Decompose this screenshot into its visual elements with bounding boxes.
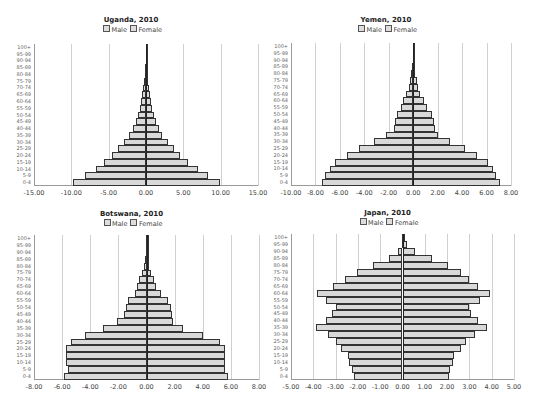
y-axis-line bbox=[34, 44, 35, 186]
y-tick-label: 90-94 bbox=[1, 249, 31, 255]
y-tick-label: 85-89 bbox=[1, 256, 31, 262]
bar-female-0-4 bbox=[403, 373, 449, 380]
bar-male-40-44 bbox=[326, 317, 403, 324]
y-tick-label: 80-84 bbox=[1, 263, 31, 269]
zero-line bbox=[403, 234, 404, 380]
legend-swatch-male bbox=[358, 25, 365, 32]
y-tick-label: 100+ bbox=[1, 235, 31, 241]
y-tick-label: 50-54 bbox=[258, 111, 288, 117]
bar-female-90-94 bbox=[403, 248, 416, 255]
bar-female-0-4 bbox=[147, 373, 229, 380]
y-tick-label: 35-39 bbox=[258, 324, 288, 330]
bar-male-80-84 bbox=[373, 262, 402, 269]
bar-female-10-14 bbox=[403, 359, 454, 366]
bar-male-30-34 bbox=[85, 332, 147, 339]
bar-male-5-9 bbox=[352, 366, 402, 373]
bar-male-15-19 bbox=[66, 352, 146, 359]
bar-female-0-4 bbox=[413, 179, 500, 186]
y-tick-label: 55-59 bbox=[258, 104, 288, 110]
y-tick-label: 40-44 bbox=[1, 318, 31, 324]
bar-female-35-39 bbox=[147, 325, 184, 332]
y-tick-label: 95-99 bbox=[1, 51, 31, 57]
y-tick-label: 95-99 bbox=[258, 50, 288, 56]
chart-legend-japan: MaleFemale bbox=[261, 218, 514, 227]
y-tick-label: 15-19 bbox=[1, 159, 31, 165]
legend-label-male: Male bbox=[367, 26, 382, 34]
bar-male-10-14 bbox=[66, 359, 146, 366]
plot-area-botswana bbox=[34, 235, 259, 380]
y-tick-label: 10-14 bbox=[258, 165, 288, 171]
gridline bbox=[315, 43, 316, 186]
y-tick-label: 60-64 bbox=[1, 98, 31, 104]
legend-label-male: Male bbox=[112, 26, 127, 34]
bar-female-40-44 bbox=[403, 317, 479, 324]
bar-female-25-29 bbox=[147, 339, 220, 346]
bar-female-60-64 bbox=[147, 290, 161, 297]
bar-female-35-39 bbox=[403, 324, 487, 331]
bar-male-30-34 bbox=[124, 139, 146, 146]
y-tick-label: 100+ bbox=[258, 43, 288, 49]
legend-label-male: Male bbox=[368, 219, 383, 227]
bar-male-45-49 bbox=[332, 310, 402, 317]
chart-legend-uganda: MaleFemale bbox=[4, 25, 258, 34]
y-tick-label: 20-24 bbox=[1, 345, 31, 351]
x-tick-label: -5.00 bbox=[89, 189, 129, 197]
y-tick-label: 65-69 bbox=[258, 283, 288, 289]
y-axis-line bbox=[291, 234, 292, 380]
bar-male-55-59 bbox=[326, 297, 402, 304]
legend-swatch-female bbox=[385, 25, 392, 32]
bar-male-0-4 bbox=[322, 179, 414, 186]
legend-label-female: Female bbox=[138, 26, 162, 34]
bar-male-75-79 bbox=[357, 269, 403, 276]
y-tick-label: 95-99 bbox=[1, 242, 31, 248]
x-tick-label: -15.00 bbox=[14, 189, 54, 197]
bar-female-5-9 bbox=[146, 172, 208, 179]
y-tick-label: 55-59 bbox=[1, 105, 31, 111]
gridline bbox=[511, 43, 512, 186]
bar-male-45-49 bbox=[395, 118, 413, 125]
y-tick-label: 90-94 bbox=[258, 248, 288, 254]
bar-male-10-14 bbox=[96, 166, 146, 173]
bar-male-70-74 bbox=[345, 276, 402, 283]
bar-female-5-9 bbox=[403, 366, 451, 373]
legend-swatch-male bbox=[104, 219, 111, 226]
bar-male-15-19 bbox=[104, 159, 146, 166]
y-tick-label: 75-79 bbox=[258, 269, 288, 275]
y-tick-label: 65-69 bbox=[1, 283, 31, 289]
bar-male-35-39 bbox=[316, 324, 402, 331]
bar-male-30-34 bbox=[328, 331, 402, 338]
bar-female-40-44 bbox=[146, 125, 159, 132]
bar-female-20-24 bbox=[146, 152, 180, 159]
y-tick-label: 55-59 bbox=[258, 297, 288, 303]
y-tick-label: 20-24 bbox=[258, 345, 288, 351]
bar-female-15-19 bbox=[413, 159, 488, 166]
bar-female-25-29 bbox=[146, 145, 174, 152]
bar-male-20-24 bbox=[347, 152, 413, 159]
y-tick-label: 75-79 bbox=[1, 78, 31, 84]
legend-swatch-female bbox=[130, 219, 137, 226]
bar-female-50-54 bbox=[413, 111, 431, 118]
y-tick-label: 5-9 bbox=[1, 172, 31, 178]
y-tick-label: 75-79 bbox=[1, 269, 31, 275]
y-tick-label: 75-79 bbox=[258, 77, 288, 83]
bar-female-45-49 bbox=[146, 118, 156, 125]
y-tick-label: 80-84 bbox=[258, 70, 288, 76]
y-tick-label: 15-19 bbox=[258, 159, 288, 165]
bar-male-60-64 bbox=[317, 290, 402, 297]
bar-male-10-14 bbox=[349, 359, 403, 366]
y-tick-label: 20-24 bbox=[1, 152, 31, 158]
gridline bbox=[469, 234, 470, 380]
bar-male-40-44 bbox=[117, 318, 147, 325]
bar-female-40-44 bbox=[147, 318, 174, 325]
chart-legend-yemen: MaleFemale bbox=[261, 25, 511, 34]
gridline bbox=[313, 234, 314, 380]
legend-label-female: Female bbox=[139, 220, 163, 228]
y-tick-label: 30-34 bbox=[258, 138, 288, 144]
gridline bbox=[62, 235, 63, 380]
bar-female-15-19 bbox=[403, 352, 455, 359]
y-tick-label: 85-89 bbox=[1, 64, 31, 70]
chart-title-yemen: Yemen, 2010 bbox=[261, 16, 511, 24]
bar-female-5-9 bbox=[413, 172, 496, 179]
bar-male-25-29 bbox=[118, 145, 146, 152]
y-tick-label: 45-49 bbox=[258, 310, 288, 316]
